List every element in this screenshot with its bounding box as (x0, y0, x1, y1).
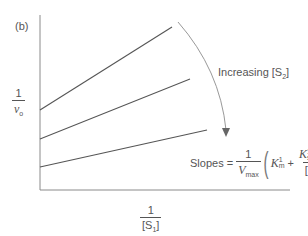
x-axis-numerator: 1 (146, 205, 156, 217)
x-axis-denominator: [S1] (140, 217, 161, 233)
ks1-var: K (299, 147, 307, 161)
y-axis-denominator: vo (12, 100, 25, 117)
panel-label: (b) (15, 20, 28, 32)
slopes-formula: Slopes = 1 Vmax ( K1m + K1s K2m [S2] ) (190, 148, 308, 179)
ks1-sub: s (307, 155, 308, 161)
arrow-head-icon (222, 128, 230, 137)
km1-sub: m (279, 163, 285, 169)
plus-sign: + (288, 157, 294, 169)
s2-open: [S (305, 164, 308, 176)
annotation-text: Increasing [S (218, 66, 282, 78)
y-axis-sub: o (19, 110, 23, 117)
y-axis-numerator: 1 (14, 88, 24, 100)
formula-frac-vmax: 1 Vmax (236, 149, 261, 178)
line-low-s2 (40, 27, 172, 110)
formula-frac-ks-km: K1s K2m [S2] (297, 148, 308, 179)
x-axis-open: [S (142, 219, 152, 231)
line-mid-s2 (40, 79, 190, 139)
formula-frac2-num: K1s K2m (297, 148, 308, 162)
km1-var: K (271, 156, 279, 171)
left-paren: ( (263, 148, 268, 178)
line-high-s2 (40, 130, 207, 167)
formula-frac1-den: Vmax (236, 161, 261, 178)
ks1-scripts: 1s (307, 149, 308, 162)
annotation-close: ] (286, 66, 289, 78)
x-axis-label: 1 [S1] (140, 205, 161, 233)
x-axis-close: ] (156, 219, 159, 231)
vmax-sub: max (245, 171, 258, 178)
formula-lhs: Slopes = (190, 157, 233, 169)
plot-canvas (0, 0, 308, 236)
formula-frac1-num: 1 (243, 149, 253, 161)
km1-scripts: 1m (279, 157, 285, 170)
increasing-s2-label: Increasing [S2] (218, 66, 289, 80)
formula-frac2-den: [S2] (303, 162, 308, 178)
y-axis-label: 1 vo (12, 88, 25, 117)
